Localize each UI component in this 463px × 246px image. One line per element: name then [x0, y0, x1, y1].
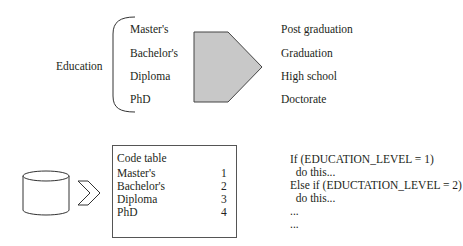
pseudo-code-line: do this... — [290, 166, 335, 179]
code-table-row-code: 1 — [221, 167, 227, 180]
code-table-row-label: Diploma — [117, 193, 157, 206]
pseudo-code-line: ... — [290, 218, 299, 231]
education-mapping-diagram: Education Master's Bachelor's Diploma Ph… — [0, 0, 463, 246]
source-value-phd: PhD — [130, 93, 150, 106]
code-table-title: Code table — [117, 152, 167, 165]
target-value-post-graduation: Post graduation — [281, 23, 353, 36]
code-table-row-code: 2 — [221, 180, 227, 193]
source-value-bachelors: Bachelor's — [130, 47, 178, 60]
source-value-diploma: Diploma — [130, 70, 170, 83]
target-value-graduation: Graduation — [281, 47, 333, 60]
code-table-row-code: 3 — [221, 193, 227, 206]
code-table-row-code: 4 — [221, 206, 227, 219]
code-table-row-label: Master's — [117, 167, 155, 180]
code-table-box: Code table Master's 1 Bachelor's 2 Diplo… — [112, 145, 237, 238]
pseudo-code-line: ... — [290, 205, 299, 218]
target-value-doctorate: Doctorate — [281, 93, 326, 106]
code-table-row-label: Bachelor's — [117, 180, 165, 193]
pseudo-code-line: do this... — [290, 192, 335, 205]
category-label: Education — [56, 60, 103, 73]
pentagon-arrow-icon — [194, 32, 262, 102]
source-value-masters: Master's — [130, 23, 168, 36]
database-icon — [23, 171, 69, 215]
pseudo-code-line: If (EDUCATION_LEVEL = 1) — [290, 153, 434, 166]
target-value-high-school: High school — [281, 70, 337, 83]
pseudo-code-line: Else if (EDUCTATION_LEVEL = 2) — [290, 179, 462, 192]
chevron-right-icon — [78, 181, 100, 205]
code-table-row-label: PhD — [117, 206, 137, 219]
